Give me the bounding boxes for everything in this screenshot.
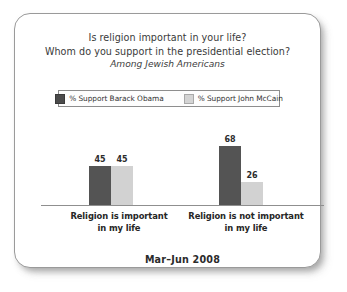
bar-mccain-important bbox=[111, 166, 133, 205]
plot-area: 45 45 68 26 bbox=[29, 118, 336, 206]
legend-swatch-dark-icon bbox=[55, 94, 65, 104]
bar-mccain-not-important bbox=[241, 182, 263, 205]
bar-column-obama-2: 68 bbox=[219, 118, 241, 205]
x-axis-label-1-line-1: Religion is important bbox=[70, 211, 167, 221]
legend-label-obama: % Support Barack Obama bbox=[69, 94, 163, 103]
bar-group-religion-important: 45 45 bbox=[75, 118, 163, 205]
legend-item-obama: % Support Barack Obama bbox=[55, 94, 163, 104]
legend-swatch-light-icon bbox=[184, 94, 194, 104]
chart-subtitle: Among Jewish Americans bbox=[15, 58, 320, 71]
x-axis-labels: Religion is important in my life Religio… bbox=[29, 211, 336, 241]
x-axis-line bbox=[41, 205, 324, 206]
bar-obama-important bbox=[89, 166, 111, 205]
bar-group-religion-not-important: 68 26 bbox=[205, 118, 293, 205]
chart-title-block: Is religion important in your life? Whom… bbox=[15, 31, 320, 71]
bar-column-mccain-2: 26 bbox=[241, 118, 263, 205]
x-axis-label-1-line-2: in my life bbox=[54, 223, 184, 235]
x-axis-label-religion-not-important: Religion is not important in my life bbox=[181, 211, 311, 234]
bar-value-mccain-not-important: 26 bbox=[232, 171, 272, 180]
x-axis-label-religion-important: Religion is important in my life bbox=[54, 211, 184, 234]
legend-label-mccain: % Support John McCain bbox=[198, 94, 283, 103]
chart-title-line-2: Whom do you support in the presidential … bbox=[15, 45, 320, 59]
bar-group-2-bars: 68 26 bbox=[219, 118, 263, 205]
bar-column-mccain-1: 45 bbox=[111, 118, 133, 205]
chart-footer-date: Mar–Jun 2008 bbox=[29, 254, 336, 265]
legend-item-mccain: % Support John McCain bbox=[184, 94, 283, 104]
chart-legend: % Support Barack Obama % Support John Mc… bbox=[58, 90, 280, 107]
bar-group-1-bars: 45 45 bbox=[89, 118, 133, 205]
x-axis-label-2-line-2: in my life bbox=[181, 223, 311, 235]
bar-value-mccain-important: 45 bbox=[102, 155, 142, 164]
x-axis-label-2-line-1: Religion is not important bbox=[188, 211, 303, 221]
chart-title-line-1: Is religion important in your life? bbox=[15, 31, 320, 45]
chart-card: Is religion important in your life? Whom… bbox=[14, 13, 321, 268]
chart-figure: Is religion important in your life? Whom… bbox=[0, 0, 347, 292]
